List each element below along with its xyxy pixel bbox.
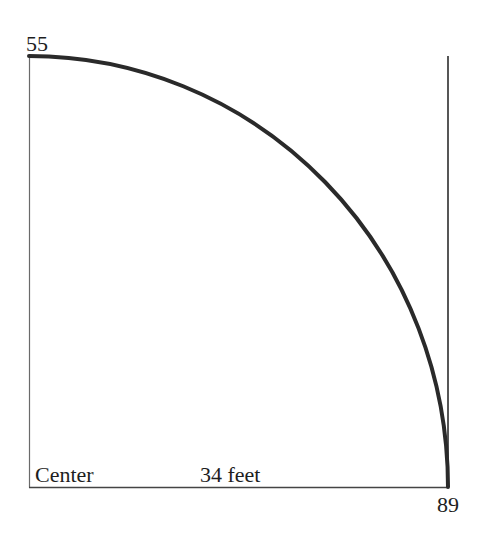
arc-curve [29,56,448,487]
label-34-feet: 34 feet [200,462,260,487]
quarter-arc-diagram: 55 Center 34 feet 89 [0,0,485,543]
label-top-left-55: 55 [26,31,48,56]
label-bottom-right-89: 89 [437,492,459,517]
label-center: Center [35,462,94,487]
